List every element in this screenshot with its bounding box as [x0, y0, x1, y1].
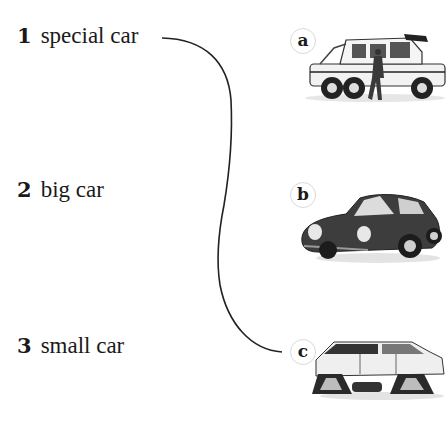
badge-a: a: [290, 28, 316, 54]
truck-picture[interactable]: [300, 22, 446, 104]
tracked-suv-picture[interactable]: [312, 340, 446, 402]
badge-c: c: [290, 339, 316, 365]
badge-b: b: [290, 182, 316, 208]
sports-car-picture[interactable]: [298, 188, 444, 268]
